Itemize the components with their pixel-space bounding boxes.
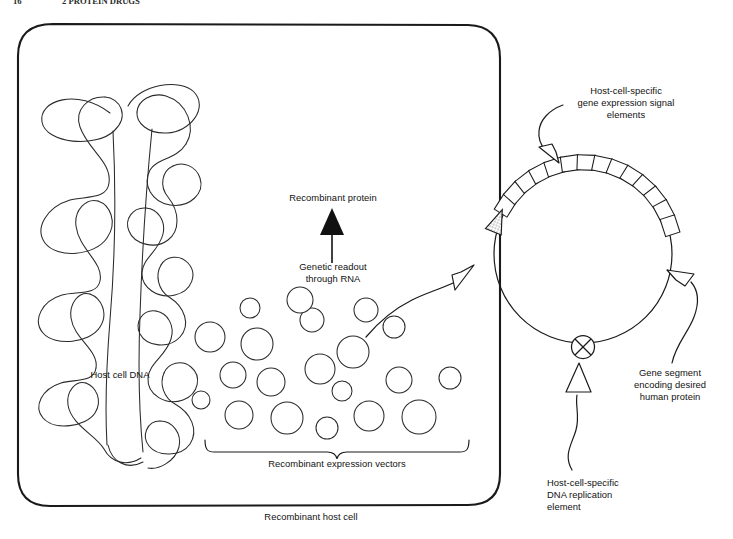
label-gene-expression-signal: Host-cell-specific gene expression signa… <box>546 85 706 122</box>
cell-membrane-outline <box>18 24 500 506</box>
gene-segment-leader-line <box>667 270 698 363</box>
recombinant-protein-arrow <box>320 208 344 263</box>
vector-circle <box>354 298 378 322</box>
vector-circle <box>439 367 461 389</box>
replication-leader-line <box>566 363 591 470</box>
gene-segment-leader-arrowhead-icon <box>667 270 694 286</box>
figure-root: 16 2 PROTEIN DRUGS <box>0 0 733 539</box>
vector-circle <box>220 362 246 388</box>
label-recombinant-protein: Recombinant protein <box>258 192 408 204</box>
vector-circle <box>386 367 412 393</box>
vector-circle <box>332 381 352 401</box>
label-gene-segment: Gene segment encoding desired human prot… <box>608 367 732 404</box>
vector-circle <box>305 354 335 384</box>
label-recombinant-host-cell: Recombinant host cell <box>221 511 401 523</box>
vectors-brace <box>205 440 469 459</box>
vector-circle <box>225 401 253 429</box>
gene-segment-boxes <box>494 155 680 237</box>
vector-circle <box>241 328 273 360</box>
promoter-leader-arrowhead-icon <box>539 144 559 163</box>
vector-circle <box>195 322 225 352</box>
vector-circle <box>257 368 285 396</box>
label-recombinant-expression-vectors: Recombinant expression vectors <box>237 458 437 470</box>
replication-origin-icon <box>572 336 595 359</box>
vector-circle <box>316 417 338 439</box>
vector-circle <box>337 336 369 368</box>
replication-leader-arrowhead-icon <box>566 363 591 392</box>
recombinant-expression-vectors-group <box>192 287 461 439</box>
label-host-cell-dna: Host cell DNA <box>60 369 180 381</box>
vector-circle <box>271 402 303 434</box>
plasmid-vector-group <box>485 155 680 359</box>
vector-circle <box>240 298 260 318</box>
connector-arrowhead-icon <box>452 265 474 290</box>
vector-circle <box>383 316 405 338</box>
vector-circle <box>354 401 384 431</box>
vector-circle <box>192 391 210 409</box>
label-genetic-readout: Genetic readout through RNA <box>272 261 394 285</box>
vector-circle <box>287 287 313 313</box>
label-dna-replication-element: Host-cell-specific DNA replication eleme… <box>547 477 687 514</box>
host-cell-dna-supercoil <box>38 84 201 468</box>
vector-circle <box>402 400 436 434</box>
